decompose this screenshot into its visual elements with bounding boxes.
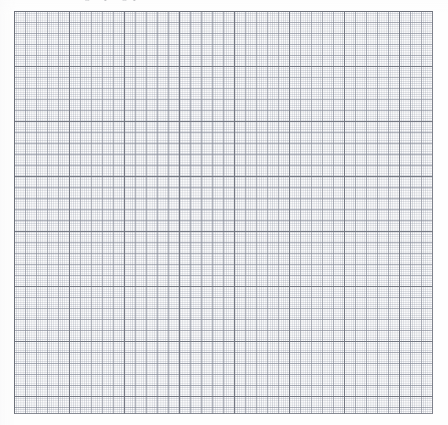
graph-paper-grid (14, 11, 433, 414)
cropped-header-strip: o r or (0, 0, 448, 11)
graph-paper-page: o r or (0, 0, 448, 425)
cropped-header-text: o r or (84, 0, 384, 5)
